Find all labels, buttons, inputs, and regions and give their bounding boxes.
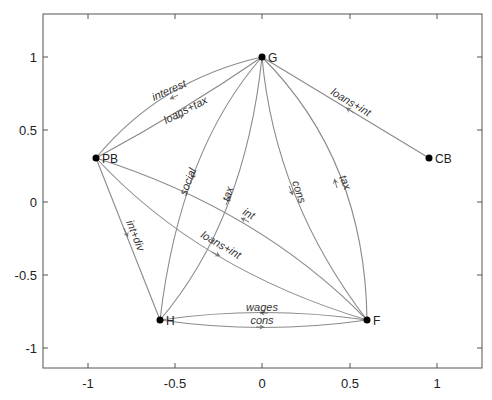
y-tick-label: -1 xyxy=(25,341,37,356)
node-label-g: G xyxy=(268,51,277,65)
x-tick-label: -0.5 xyxy=(164,376,186,391)
edge-label-social: social xyxy=(177,166,199,197)
node-pb xyxy=(93,155,100,162)
edge-labels: interest loans+tax loans+int social tax … xyxy=(124,77,374,326)
node-label-h: H xyxy=(166,314,175,328)
edge-label-int-div: int+div xyxy=(124,218,148,254)
x-tick-label: -1 xyxy=(82,376,94,391)
y-tick-label: 0.5 xyxy=(19,123,37,138)
node-label-pb: PB xyxy=(102,152,118,166)
x-axis: -1 -0.5 0 0.5 1 xyxy=(82,14,440,391)
edge-label-pb-loans-int: loans+int xyxy=(199,228,244,261)
y-tick-label: 1 xyxy=(30,50,37,65)
x-tick-label: 0 xyxy=(258,376,265,391)
edge-label-loans-tax: loans+tax xyxy=(161,93,209,125)
edge-label-cb-loans-int: loans+int xyxy=(329,85,374,119)
edge-label-h-tax: tax xyxy=(219,184,235,202)
node-label-f: F xyxy=(373,314,380,328)
node-f xyxy=(364,317,371,324)
edge-label-wages: wages xyxy=(246,301,278,313)
network-diagram: -1 -0.5 0 0.5 1 1 0.5 0 -0.5 -1 xyxy=(0,0,492,400)
y-tick-label: 0 xyxy=(30,195,37,210)
node-g xyxy=(259,54,266,61)
edge-label-g-cons: cons xyxy=(290,179,309,205)
y-tick-label: -0.5 xyxy=(15,268,37,283)
node-cb xyxy=(426,155,433,162)
edge-int-div xyxy=(96,158,160,320)
edge-label-interest: interest xyxy=(150,77,189,103)
node-label-cb: CB xyxy=(435,152,452,166)
node-h xyxy=(157,317,164,324)
x-tick-label: 0.5 xyxy=(341,376,359,391)
arrow-icon xyxy=(172,95,178,98)
edges xyxy=(96,57,429,328)
edge-cb-loans-int xyxy=(262,57,429,158)
edge-label-h-cons: cons xyxy=(250,314,274,326)
x-tick-label: 1 xyxy=(433,376,440,391)
edge-label-f-tax: tax xyxy=(337,173,354,192)
arrow-icon xyxy=(335,181,337,188)
